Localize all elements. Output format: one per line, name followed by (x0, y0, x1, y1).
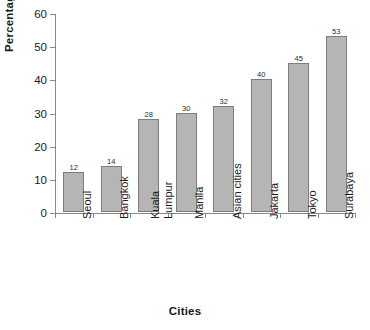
y-tick-label: 60 (34, 6, 47, 22)
x-category-label: Asian cities (230, 163, 244, 219)
x-category-label: Tokyo (305, 190, 319, 219)
bar-value-label: 14 (107, 157, 115, 166)
x-category-label: Surabaya (342, 172, 356, 219)
x-category-label: Bangkok (117, 176, 131, 219)
x-tick-mark (55, 213, 56, 218)
y-axis-title: Percentage (0, 0, 18, 80)
bar-value-label: 30 (182, 104, 190, 113)
y-tick-mark (50, 114, 55, 115)
bar-chart: Percentage 0102030405060 121428303240455… (0, 0, 370, 330)
y-tick-mark (50, 147, 55, 148)
y-tick-mark (50, 47, 55, 48)
bar-value-label: 12 (70, 163, 78, 172)
bar-value-label: 28 (145, 110, 153, 119)
plot-area: 0102030405060 1214283032404553 (55, 14, 355, 213)
y-tick-mark (50, 180, 55, 181)
x-category-label: Seoul (80, 191, 94, 219)
bar-value-label: 45 (295, 54, 303, 63)
bar-value-label: 32 (220, 97, 228, 106)
bar-value-label: 53 (332, 27, 340, 36)
x-axis-title: Cities (0, 305, 370, 317)
y-tick-label: 50 (34, 39, 47, 55)
y-axis-line (55, 14, 56, 213)
y-tick-label: 0 (41, 205, 47, 221)
x-category-label: Jakarta (267, 183, 281, 219)
y-tick-label: 20 (34, 139, 47, 155)
y-tick-label: 10 (34, 172, 47, 188)
bar-value-label: 40 (257, 70, 265, 79)
y-tick-label: 30 (34, 106, 47, 122)
x-category-label: Manila (192, 187, 206, 219)
y-tick-label: 40 (34, 72, 47, 88)
y-tick-mark (50, 14, 55, 15)
y-tick-mark (50, 80, 55, 81)
x-category-label: Lumpur (161, 182, 175, 219)
